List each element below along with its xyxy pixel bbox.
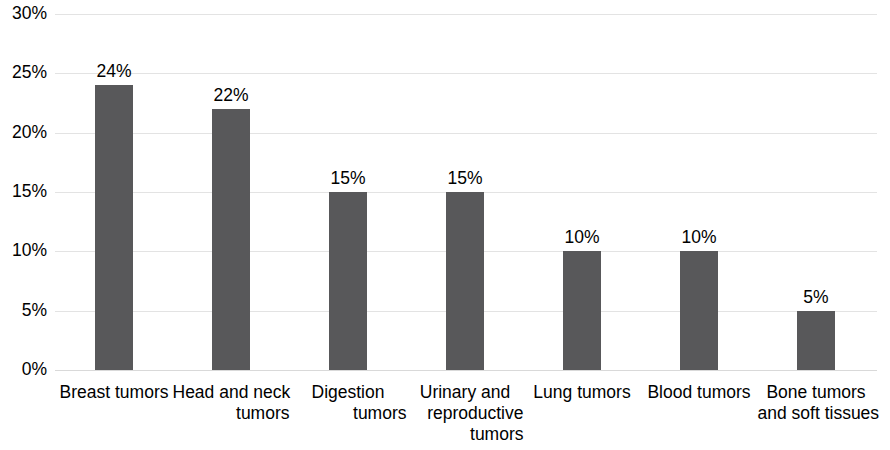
bar-value-label: 10% (681, 229, 716, 247)
bar-value-label: 24% (96, 63, 131, 81)
y-axis-tick-label: 20% (0, 124, 47, 142)
bar-value-label: 5% (803, 289, 828, 307)
bar-value-label: 15% (330, 170, 365, 188)
bar-value-label: 10% (564, 229, 599, 247)
bar (329, 192, 367, 370)
x-axis-category-label: Bone tumorsand soft tissues (758, 382, 875, 424)
x-axis-category-line: Head and neck (173, 382, 290, 403)
y-axis-tick-label: 10% (0, 243, 47, 261)
x-axis-category-label: Breast tumors (56, 382, 173, 403)
x-axis: Breast tumorsHead and necktumorsDigestio… (0, 382, 890, 450)
gridline-25% (55, 73, 877, 74)
x-axis-category-line: Blood tumors (641, 382, 758, 403)
x-axis-category-line: tumors (407, 424, 524, 445)
x-axis-category-line: and soft tissues (758, 403, 875, 424)
bar-value-label: 15% (447, 170, 482, 188)
x-axis-category-line: Lung tumors (524, 382, 641, 403)
bar-chart: 0%5%10%15%20%25%30% 24%22%15%15%10%10%5%… (0, 0, 890, 450)
bar-value-label: 22% (213, 87, 248, 105)
x-axis-category-line: Urinary and (407, 382, 524, 403)
y-axis-tick-label: 30% (0, 5, 47, 23)
x-axis-category-line: Digestion (290, 382, 407, 403)
x-axis-category-line: Breast tumors (56, 382, 173, 403)
bar (95, 85, 133, 370)
x-axis-category-line: tumors (290, 403, 407, 424)
bar (563, 251, 601, 370)
y-axis-tick-label: 25% (0, 65, 47, 83)
x-axis-category-line: tumors (173, 403, 290, 424)
x-axis-category-label: Head and necktumors (173, 382, 290, 424)
x-axis-category-line: reproductive (407, 403, 524, 424)
bar (446, 192, 484, 370)
x-axis-category-label: Urinary andreproductivetumors (407, 382, 524, 445)
x-axis-category-label: Blood tumors (641, 382, 758, 403)
x-axis-category-label: Lung tumors (524, 382, 641, 403)
bar (680, 251, 718, 370)
gridline-20% (55, 133, 877, 134)
y-axis-tick-label: 5% (0, 302, 47, 320)
bar (797, 311, 835, 370)
gridline-0% (55, 370, 877, 371)
y-axis-tick-label: 15% (0, 183, 47, 201)
bar (212, 109, 250, 370)
y-axis-tick-label: 0% (0, 361, 47, 379)
x-axis-category-line: Bone tumors (758, 382, 875, 403)
plot-area: 24%22%15%15%10%10%5% (55, 14, 877, 370)
x-axis-category-label: Digestiontumors (290, 382, 407, 424)
gridline-30% (55, 14, 877, 15)
